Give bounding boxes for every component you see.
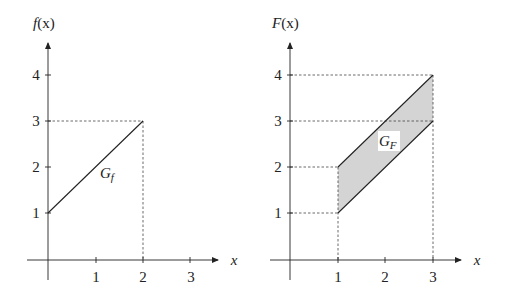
left-chart: 1 2 3 1 2 3 4 f(x) x Gf: [27, 15, 238, 285]
left-y-label: f(x): [33, 15, 55, 32]
left-ytick-2: 2: [32, 159, 40, 175]
right-chart: 1 2 3 1 2 3 4 F(x) x GF: [270, 15, 481, 285]
left-graph-label: Gf: [100, 165, 116, 183]
right-ytick-3: 3: [274, 113, 282, 129]
left-ytick-4: 4: [32, 67, 40, 83]
right-x-label: x: [473, 252, 481, 268]
right-xtick-3: 3: [429, 269, 437, 285]
right-y-label: F(x): [271, 15, 299, 32]
figure: 1 2 3 1 2 3 4 f(x) x Gf: [0, 0, 509, 301]
right-ytick-4: 4: [274, 67, 282, 83]
right-ytick-1: 1: [274, 205, 282, 221]
left-xtick-1: 1: [92, 269, 100, 285]
right-xtick-1: 1: [334, 269, 342, 285]
right-ytick-2: 2: [274, 159, 282, 175]
left-xtick-2: 2: [139, 269, 147, 285]
left-ytick-1: 1: [32, 205, 40, 221]
left-xtick-3: 3: [187, 269, 195, 285]
right-xtick-2: 2: [381, 269, 389, 285]
left-x-label: x: [230, 252, 238, 268]
left-dashed-guides: [48, 121, 143, 260]
left-graph-line: [48, 121, 143, 213]
left-ticks: [45, 75, 190, 263]
left-ytick-3: 3: [32, 113, 40, 129]
